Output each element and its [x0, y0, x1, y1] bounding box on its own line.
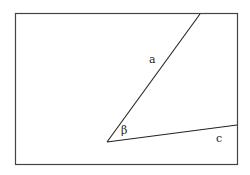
- side-c-label: c: [216, 132, 222, 145]
- angle-beta-label: β: [121, 124, 127, 137]
- angle-diagram: a c β: [0, 0, 250, 175]
- side-a-label: a: [149, 53, 156, 66]
- diagram-frame: [16, 14, 238, 165]
- side-a-line: [107, 14, 200, 142]
